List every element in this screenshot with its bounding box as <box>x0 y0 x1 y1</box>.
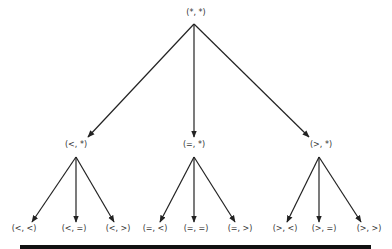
edge-root-lt <box>88 24 194 137</box>
edge-eq-gt <box>194 157 235 222</box>
node-eq-eq: (=, =) <box>184 224 209 234</box>
edge-root-gt <box>194 24 309 137</box>
edge-eq-lt <box>160 157 194 222</box>
bottom-rule <box>20 245 371 249</box>
edge-gt-gt <box>319 157 361 222</box>
node-lt-lt: (<, <) <box>12 224 37 234</box>
node-lt-gt: (<, >) <box>106 224 131 234</box>
node-gt-eq: (>, =) <box>312 224 337 234</box>
node-gt-lt: (>, <) <box>273 224 298 234</box>
edge-lt-gt <box>76 157 114 222</box>
node-gt-any: (>, *) <box>310 140 332 150</box>
tree-edges <box>0 0 392 249</box>
node-lt-any: (<, *) <box>65 140 87 150</box>
node-root: (*, *) <box>186 8 205 18</box>
node-gt-gt: (>, >) <box>357 224 382 234</box>
node-eq-gt: (=, >) <box>228 224 253 234</box>
edge-lt-lt <box>32 157 76 222</box>
node-eq-lt: (=, <) <box>143 224 168 234</box>
node-lt-eq: (<, =) <box>62 224 87 234</box>
node-eq-any: (=, *) <box>183 140 205 150</box>
edge-gt-lt <box>287 157 319 222</box>
